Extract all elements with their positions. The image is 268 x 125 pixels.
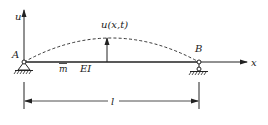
span-dimension: l [24, 82, 199, 109]
deflection-curve [24, 38, 199, 62]
u-axis-label: u [15, 11, 21, 22]
support-b-roller: B [189, 43, 208, 75]
x-axis: x [199, 57, 257, 68]
deflection-label: u(x,t) [101, 19, 128, 30]
beam-properties: m EI [59, 63, 92, 74]
mass-label: m [59, 64, 68, 74]
deflection-arrow: u(x,t) [101, 19, 128, 62]
span-label: l [111, 96, 114, 107]
stiffness-label: EI [79, 63, 92, 74]
beam-diagram: u x u(x,t) A [0, 0, 268, 125]
support-a-label: A [11, 49, 19, 60]
support-b-label: B [194, 43, 202, 54]
x-axis-label: x [251, 57, 257, 68]
